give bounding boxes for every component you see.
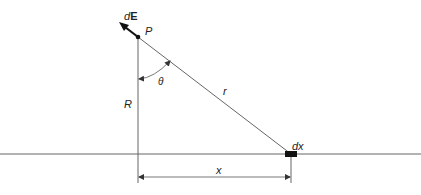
- x-label: x: [216, 165, 222, 176]
- dE-label: dE: [124, 11, 137, 22]
- dx-label: dx: [292, 141, 304, 152]
- point-P-label: P: [145, 26, 152, 37]
- distance-line: [138, 37, 291, 154]
- theta-label: θ: [158, 77, 163, 87]
- r-label: r: [223, 86, 227, 97]
- angle-arc: [139, 61, 170, 79]
- R-label: R: [124, 99, 132, 110]
- dE-vector-arrow: [125, 27, 138, 37]
- dE-vector-symbol: E: [130, 10, 137, 22]
- point-P: [136, 35, 141, 40]
- field-diagram: [0, 0, 421, 195]
